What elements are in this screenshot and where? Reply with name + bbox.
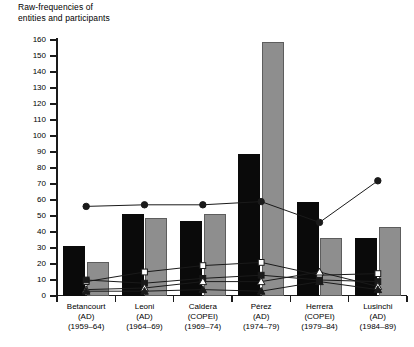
y-tick-label-110: 110 (6, 116, 46, 124)
line-series-layer (57, 40, 407, 296)
marker-line-open-square-caldera (200, 263, 206, 269)
chart-title: Raw-frequencies of entities and particip… (18, 2, 110, 24)
y-tick-label-120: 120 (6, 100, 46, 108)
y-tick-label-0: 0 (6, 292, 46, 300)
y-tick-label-60: 60 (6, 196, 46, 204)
x-label-lusinchi: Lusinchi (AD) (1984–89) (339, 302, 414, 332)
line-line-filled-circle (86, 181, 378, 223)
y-tick-label-90: 90 (6, 148, 46, 156)
marker-line-filled-square-betancourt (83, 277, 89, 283)
marker-line-open-square-pérez (258, 260, 264, 266)
y-tick-label-20: 20 (6, 260, 46, 268)
y-tick-label-70: 70 (6, 180, 46, 188)
y-tick-label-10: 10 (6, 276, 46, 284)
y-tick-label-50: 50 (6, 212, 46, 220)
marker-line-filled-circle-leoni (141, 202, 147, 208)
y-tick-label-130: 130 (6, 84, 46, 92)
y-tick-label-100: 100 (6, 132, 46, 140)
y-tick-label-40: 40 (6, 228, 46, 236)
chart-figure: Raw-frequencies of entities and particip… (0, 0, 414, 347)
marker-line-open-square-leoni (142, 269, 148, 275)
y-tick-label-160: 160 (6, 36, 46, 44)
marker-line-filled-circle-lusinchi (375, 178, 381, 184)
line-line-filled-triangle (86, 282, 378, 292)
plot-area (57, 40, 407, 296)
y-tick-label-140: 140 (6, 68, 46, 76)
marker-line-filled-circle-caldera (200, 202, 206, 208)
marker-line-filled-circle-pérez (258, 198, 264, 204)
y-tick-label-150: 150 (6, 52, 46, 60)
y-tick-label-80: 80 (6, 164, 46, 172)
y-tick-label-30: 30 (6, 244, 46, 252)
marker-line-filled-circle-herrera (316, 219, 322, 225)
marker-line-open-triangle-herrera (316, 268, 324, 275)
marker-line-filled-circle-betancourt (83, 203, 89, 209)
marker-line-open-square-lusinchi (375, 271, 381, 277)
line-line-open-square (86, 262, 378, 281)
